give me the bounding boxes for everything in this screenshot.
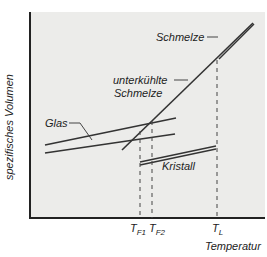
x-axis-label: Temperatur [205, 240, 261, 252]
label-kristall: Kristall [162, 160, 195, 172]
label-unterkuehlt-1: unterkühlte [113, 74, 167, 86]
tick-tf1: TF1 [130, 222, 146, 239]
tick-tf2: TF2 [149, 222, 165, 239]
melt-double [219, 24, 254, 59]
glass-line-2 [45, 134, 175, 153]
y-axis-label: spezifisches Volumen [3, 74, 15, 180]
label-unterkuehlt-2: Schmelze [114, 87, 162, 99]
label-glas: Glas [45, 117, 68, 129]
diagram-lines [0, 0, 267, 257]
label-schmelze: Schmelze [156, 31, 204, 43]
tick-tl: TL [212, 222, 223, 239]
diagram: spezifisches Volumen Schmelze unterkühlt… [0, 0, 267, 257]
